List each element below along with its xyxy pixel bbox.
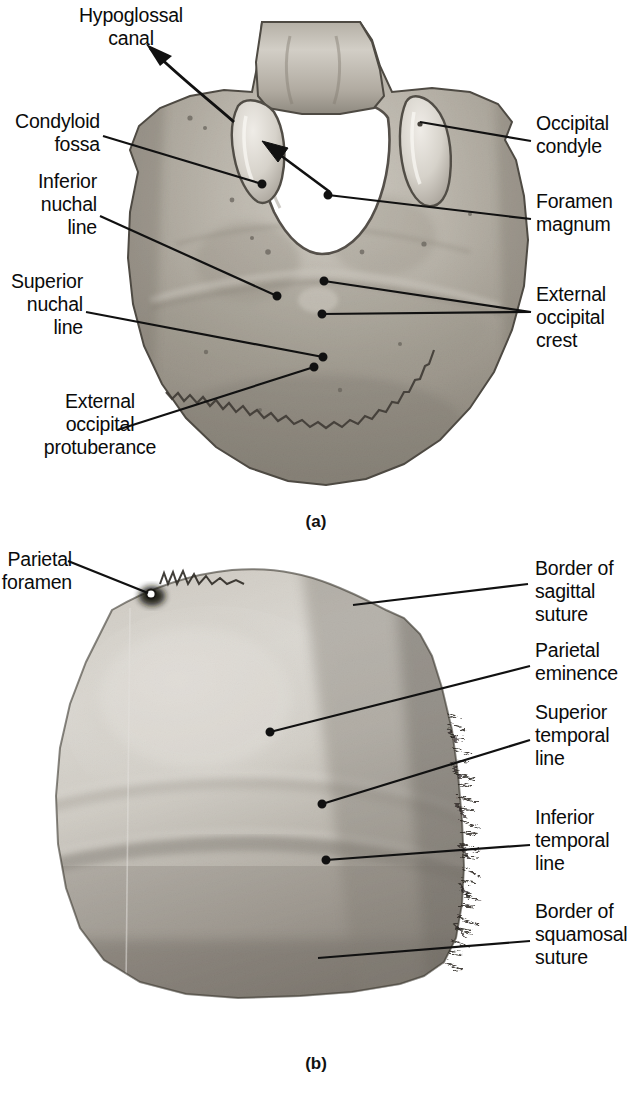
label-border-of-squamosal-suture: Border of squamosal suture (535, 900, 633, 969)
panel-caption-b: (b) (276, 1054, 356, 1074)
label-parietal-foramen: Parietal foramen (0, 548, 72, 594)
panel-b-parietal-bone: Parietal foramen Border of sagittal sutu… (0, 548, 633, 1095)
label-inferior-nuchal-line: Inferior nuchal line (0, 170, 97, 239)
label-occipital-condyle: Occipital condyle (536, 112, 633, 158)
panel-a-occipital-bone: Hypoglossal canal Condyloid fossa Inferi… (0, 0, 633, 548)
label-superior-nuchal-line: Superior nuchal line (0, 270, 83, 339)
label-condyloid-fossa: Condyloid fossa (0, 110, 100, 156)
label-foramen-magnum: Foramen magnum (536, 190, 633, 236)
label-inferior-temporal-line: Inferior temporal line (535, 806, 633, 875)
label-superior-temporal-line: Superior temporal line (535, 701, 633, 770)
label-external-occipital-crest: External occipital crest (536, 283, 633, 352)
label-external-occipital-protuberance: External occipital protuberance (0, 390, 200, 459)
basilar-part (256, 22, 384, 114)
parietal-foramen-hole (139, 586, 165, 606)
label-parietal-eminence: Parietal eminence (535, 639, 633, 685)
label-hypoglossal-canal: Hypoglossal canal (46, 4, 216, 50)
panel-caption-a: (a) (276, 512, 356, 532)
occipital-bone-photograph (0, 0, 633, 548)
label-border-of-sagittal-suture: Border of sagittal suture (535, 557, 633, 626)
anatomy-figure: Hypoglossal canal Condyloid fossa Inferi… (0, 0, 633, 1095)
